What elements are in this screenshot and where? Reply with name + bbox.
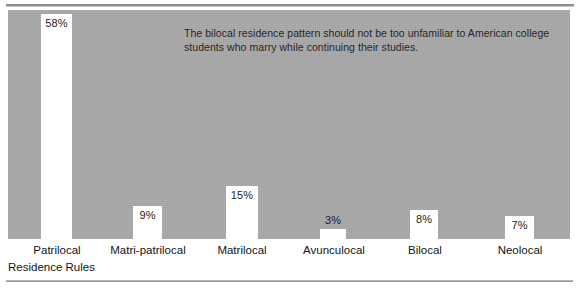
bar-value-avunculocal: 3% bbox=[311, 214, 355, 226]
category-label-patrilocal: Patrilocal bbox=[20, 244, 94, 257]
category-label-matri-patrilocal: Matri-patrilocal bbox=[97, 244, 199, 257]
clipped-caption bbox=[8, 286, 428, 291]
bar-patrilocal bbox=[41, 14, 72, 239]
bar-value-bilocal: 8% bbox=[402, 213, 446, 225]
bar-avunculocal bbox=[320, 229, 346, 239]
bar-value-patrilocal: 58% bbox=[35, 17, 79, 29]
bottom-rule-dark bbox=[6, 281, 573, 282]
category-label-neolocal: Neolocal bbox=[480, 244, 560, 257]
bar-value-neolocal: 7% bbox=[498, 219, 542, 231]
category-label-avunculocal: Avunculocal bbox=[292, 244, 376, 257]
bar-value-matri-patrilocal: 9% bbox=[126, 209, 170, 221]
category-label-bilocal: Bilocal bbox=[388, 244, 462, 257]
axis-title-residence-rules: Residence Rules bbox=[8, 261, 95, 274]
bar-value-matrilocal: 15% bbox=[220, 189, 264, 201]
bar-chart-figure: The bilocal residence pattern should not… bbox=[0, 0, 581, 291]
bars-layer: 58%Patrilocal9%Matri-patrilocal15%Matril… bbox=[0, 0, 581, 291]
category-label-matrilocal: Matrilocal bbox=[203, 244, 281, 257]
